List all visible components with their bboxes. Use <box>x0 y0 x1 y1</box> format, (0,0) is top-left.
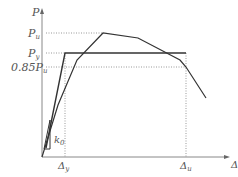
p085-label: 0.85Pu <box>11 61 48 75</box>
dy-label: Δy <box>57 160 70 173</box>
k0-label: k0 <box>54 134 65 147</box>
y-axis-arrow-icon <box>40 8 44 14</box>
du-label: Δu <box>179 160 192 173</box>
py-label: Py <box>27 47 40 61</box>
x-axis-arrow-icon <box>224 155 230 159</box>
x-axis-label: Δ <box>230 159 238 170</box>
pu-label: Pu <box>27 27 40 41</box>
skeleton-curve <box>42 33 206 157</box>
load-displacement-diagram: P Δ Pu Py 0.85Pu Δy Δu k0 <box>0 0 238 177</box>
y-axis-label: P <box>31 6 40 19</box>
